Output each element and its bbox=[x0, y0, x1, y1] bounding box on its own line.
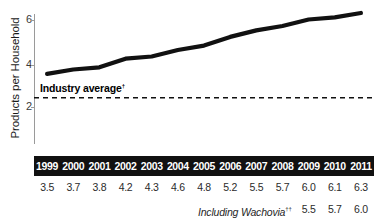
year-header-cell-2009: 2009 bbox=[296, 160, 322, 172]
year-header-cell-1999: 1999 bbox=[34, 160, 60, 172]
value-cell-2010: 6.1 bbox=[322, 181, 348, 193]
value-cell-1999: 3.5 bbox=[34, 181, 60, 193]
value-cell-2003: 4.3 bbox=[139, 181, 165, 193]
including-wachovia-text: Including Wachovia bbox=[198, 206, 285, 218]
year-header-cell-2003: 2003 bbox=[139, 160, 165, 172]
value-cell-2006: 5.2 bbox=[217, 181, 243, 193]
industry-average-label: Industry average† bbox=[40, 82, 125, 94]
wachovia-value-cell-2011: 6.0 bbox=[348, 203, 374, 215]
value-cell-2005: 4.8 bbox=[191, 181, 217, 193]
value-cell-2008: 5.7 bbox=[269, 181, 295, 193]
value-cell-2000: 3.7 bbox=[60, 181, 86, 193]
industry-average-footnote-marker: † bbox=[122, 82, 125, 88]
year-header-cell-2010: 2010 bbox=[322, 160, 348, 172]
series-line-chart bbox=[34, 8, 374, 150]
including-wachovia-footnote-marker: †† bbox=[285, 206, 291, 212]
year-header-cell-2006: 2006 bbox=[217, 160, 243, 172]
value-cell-2004: 4.6 bbox=[165, 181, 191, 193]
including-wachovia-label: Including Wachovia†† bbox=[198, 201, 292, 217]
value-cell-2002: 4.2 bbox=[112, 181, 138, 193]
value-cell-2011: 6.3 bbox=[348, 181, 374, 193]
y-axis-title: Products per Household bbox=[8, 4, 22, 152]
wachovia-value-cell-2010: 5.7 bbox=[322, 203, 348, 215]
year-header-cell-2005: 2005 bbox=[191, 160, 217, 172]
year-header-cell-2000: 2000 bbox=[60, 160, 86, 172]
year-header-bar: 1999200020012002200320042005200620072008… bbox=[34, 156, 374, 176]
wachovia-value-cell-2009: 5.5 bbox=[296, 203, 322, 215]
value-cell-2007: 5.5 bbox=[243, 181, 269, 193]
industry-average-text: Industry average bbox=[40, 82, 122, 94]
value-cell-2001: 3.8 bbox=[86, 181, 112, 193]
year-header-cell-2004: 2004 bbox=[165, 160, 191, 172]
year-header-cell-2007: 2007 bbox=[243, 160, 269, 172]
plot-area: 6 4 2 Industry average† bbox=[34, 8, 374, 150]
series-line-products-per-household bbox=[47, 13, 361, 74]
value-cell-2009: 6.0 bbox=[296, 181, 322, 193]
year-header-cell-2011: 2011 bbox=[348, 160, 374, 172]
year-header-cell-2008: 2008 bbox=[269, 160, 295, 172]
including-wachovia-row: Including Wachovia†† 5.55.76.0 bbox=[34, 201, 374, 217]
chart-container: Products per Household 6 4 2 Industry av… bbox=[0, 0, 374, 224]
year-header-cell-2002: 2002 bbox=[112, 160, 138, 172]
year-header-cell-2001: 2001 bbox=[86, 160, 112, 172]
values-row: 3.53.73.84.24.34.64.85.25.55.76.06.16.3 bbox=[34, 179, 374, 195]
